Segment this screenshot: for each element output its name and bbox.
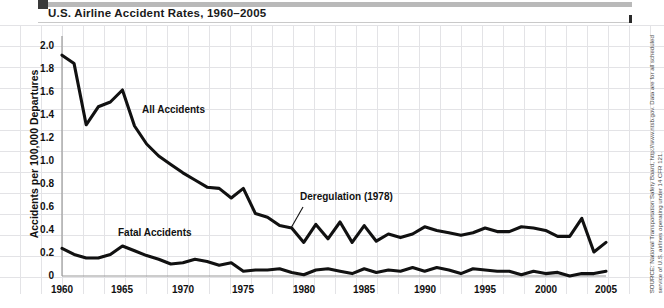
series-label-fatal-accidents: Fatal Accidents [118,227,192,238]
series-line-fatal-accidents [62,246,606,276]
series-label-all-accidents: All Accidents [142,104,205,115]
deregulation-leader-line [291,207,303,228]
series-line-all-accidents [62,55,606,252]
plot-area [0,0,664,308]
annotation-deregulation: Deregulation (1978) [300,191,393,202]
chart-figure: U.S. Airline Accident Rates, 1960–2005 A… [0,0,664,308]
source-note: SOURCE: National Transportation Safety B… [648,23,664,293]
